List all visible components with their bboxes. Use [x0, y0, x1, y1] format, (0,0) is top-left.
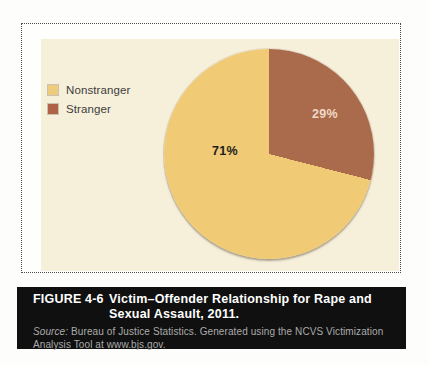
source-line1: Bureau of Justice Statistics. Generated …	[68, 326, 383, 337]
pie-slice-label-nonstranger: 71%	[212, 144, 238, 158]
legend-label-stranger: Stranger	[66, 103, 111, 115]
figure-title: Victim–Offender Relationship for Rape an…	[109, 292, 392, 322]
nonstranger-swatch-icon	[47, 84, 59, 96]
legend: Nonstranger Stranger	[47, 84, 130, 122]
source-line2: Analysis Tool at www.bjs.gov.	[33, 339, 166, 350]
figure-title-line1: Victim–Offender Relationship for Rape an…	[109, 292, 372, 306]
caption-bar: FIGURE 4-6 Victim–Offender Relationship …	[17, 287, 406, 349]
source-prefix: Source:	[33, 326, 68, 337]
stranger-swatch-icon	[47, 103, 59, 115]
figure-number-label: FIGURE 4-6	[33, 292, 109, 322]
chart-frame: Nonstranger Stranger 71% 29%	[21, 23, 401, 273]
pie-chart: 71% 29%	[164, 49, 374, 259]
pie-slice-label-stranger: 29%	[312, 107, 338, 121]
figure-source: Source: Bureau of Justice Statistics. Ge…	[33, 325, 392, 351]
legend-item-nonstranger: Nonstranger	[47, 84, 130, 96]
legend-label-nonstranger: Nonstranger	[66, 84, 130, 96]
caption-heading: FIGURE 4-6 Victim–Offender Relationship …	[33, 292, 392, 322]
legend-item-stranger: Stranger	[47, 103, 130, 115]
figure-page: { "chart_data": { "type": "pie", "title"…	[0, 0, 428, 365]
figure-title-line2: Sexual Assault, 2011.	[109, 307, 239, 321]
